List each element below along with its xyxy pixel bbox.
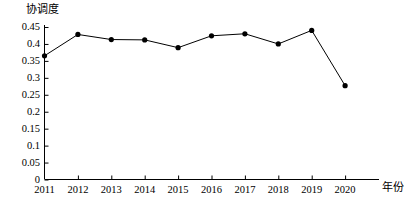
data-point xyxy=(142,37,147,42)
x-tick-label: 2020 xyxy=(325,185,365,196)
x-axis-ticks xyxy=(78,176,345,180)
data-point xyxy=(276,41,281,46)
data-point xyxy=(176,45,181,50)
y-tick-label: 0.05 xyxy=(0,158,40,169)
data-point xyxy=(42,53,47,58)
data-line-series xyxy=(45,30,346,85)
y-tick-label: 0.35 xyxy=(0,56,40,67)
data-point xyxy=(309,28,314,33)
plot-area xyxy=(0,0,413,215)
y-tick-label: 0.25 xyxy=(0,90,40,101)
data-point xyxy=(242,31,247,36)
y-tick-label: 0.4 xyxy=(0,39,40,50)
y-tick-label: 0.2 xyxy=(0,107,40,118)
y-tick-label: 0.1 xyxy=(0,141,40,152)
axis-lines xyxy=(45,25,380,180)
data-point xyxy=(209,33,214,38)
data-point xyxy=(343,83,348,88)
y-axis-ticks xyxy=(45,28,49,181)
data-point xyxy=(75,32,80,37)
coordination-degree-line-chart: 协调度 年份 00.050.10.150.20.250.30.350.40.45… xyxy=(0,0,413,215)
data-point-markers xyxy=(42,28,348,88)
y-tick-label: 0.15 xyxy=(0,124,40,135)
y-tick-label: 0.45 xyxy=(0,22,40,33)
data-point xyxy=(109,37,114,42)
y-tick-label: 0.3 xyxy=(0,73,40,84)
